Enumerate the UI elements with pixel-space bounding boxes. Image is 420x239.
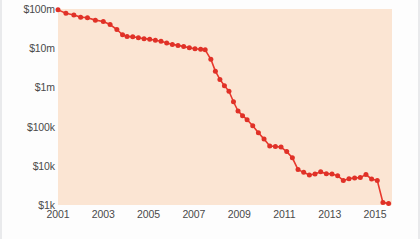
data-point-marker xyxy=(170,42,175,47)
data-point-marker xyxy=(187,45,192,50)
data-point-marker xyxy=(335,173,340,178)
series-markers xyxy=(56,7,392,206)
data-point-marker xyxy=(203,47,208,52)
data-point-marker xyxy=(213,69,218,74)
y-axis: $100m$10m$1m$100k$10k$1k xyxy=(0,0,55,239)
data-point-marker xyxy=(313,171,318,176)
data-point-marker xyxy=(198,47,203,52)
data-point-marker xyxy=(307,173,312,178)
data-point-marker xyxy=(153,38,158,43)
x-tick-label: 2013 xyxy=(318,208,341,220)
plot-area xyxy=(58,9,392,205)
data-point-marker xyxy=(56,7,61,12)
cost-line-series xyxy=(58,9,392,205)
data-point-marker xyxy=(208,57,213,62)
data-point-marker xyxy=(236,109,241,114)
data-point-marker xyxy=(380,200,385,205)
data-point-marker xyxy=(226,89,231,94)
x-tick-label: 2001 xyxy=(47,208,70,220)
data-point-marker xyxy=(296,167,301,172)
data-point-marker xyxy=(130,34,135,39)
data-point-marker xyxy=(159,39,164,44)
x-tick-label: 2011 xyxy=(273,208,295,220)
data-point-marker xyxy=(256,130,261,135)
x-tick-label: 2005 xyxy=(137,208,160,220)
data-point-marker xyxy=(346,176,351,181)
data-point-marker xyxy=(71,13,76,18)
data-point-marker xyxy=(290,155,295,160)
data-point-marker xyxy=(125,34,130,39)
data-point-marker xyxy=(245,117,250,122)
data-point-marker xyxy=(318,169,323,174)
data-point-marker xyxy=(386,201,391,206)
y-tick-label: $100m xyxy=(23,3,55,15)
data-point-marker xyxy=(222,83,227,88)
data-point-marker xyxy=(176,43,181,48)
x-tick-label: 2003 xyxy=(92,208,115,220)
data-point-marker xyxy=(352,175,357,180)
y-tick-label: $100k xyxy=(27,121,55,133)
data-point-marker xyxy=(108,22,113,27)
data-point-marker xyxy=(375,178,380,183)
data-point-marker xyxy=(324,171,329,176)
data-point-marker xyxy=(147,37,152,42)
data-point-marker xyxy=(363,172,368,177)
y-tick-label: $10k xyxy=(33,160,55,172)
data-point-marker xyxy=(369,177,374,182)
data-point-marker xyxy=(78,15,83,20)
data-point-marker xyxy=(181,44,186,49)
data-point-marker xyxy=(279,145,284,150)
data-point-marker xyxy=(114,27,119,32)
data-point-marker xyxy=(341,178,346,183)
y-tick-label: $1m xyxy=(35,81,55,93)
data-point-marker xyxy=(240,113,245,118)
x-tick-label: 2015 xyxy=(364,208,387,220)
data-point-marker xyxy=(329,171,334,176)
data-point-marker xyxy=(142,36,147,41)
x-tick-label: 2007 xyxy=(182,208,205,220)
x-axis: 20012003200520072009201120132015 xyxy=(0,208,420,228)
data-point-marker xyxy=(85,15,90,20)
data-point-marker xyxy=(358,175,363,180)
data-point-marker xyxy=(93,18,98,23)
data-point-marker xyxy=(63,11,68,16)
data-point-marker xyxy=(231,99,236,104)
x-tick-label: 2009 xyxy=(228,208,251,220)
data-point-marker xyxy=(193,46,198,51)
data-point-marker xyxy=(284,149,289,154)
data-point-marker xyxy=(273,144,278,149)
data-point-marker xyxy=(217,77,222,82)
y-tick-label: $10m xyxy=(29,42,55,54)
data-point-marker xyxy=(250,123,255,128)
data-point-marker xyxy=(301,170,306,175)
chart-container: $100m$10m$1m$100k$10k$1k 200120032005200… xyxy=(0,0,420,239)
data-point-marker xyxy=(267,144,272,149)
data-point-marker xyxy=(262,137,267,142)
data-point-marker xyxy=(101,19,106,24)
data-point-marker xyxy=(136,35,141,40)
data-point-marker xyxy=(120,32,125,37)
data-point-marker xyxy=(164,41,169,46)
